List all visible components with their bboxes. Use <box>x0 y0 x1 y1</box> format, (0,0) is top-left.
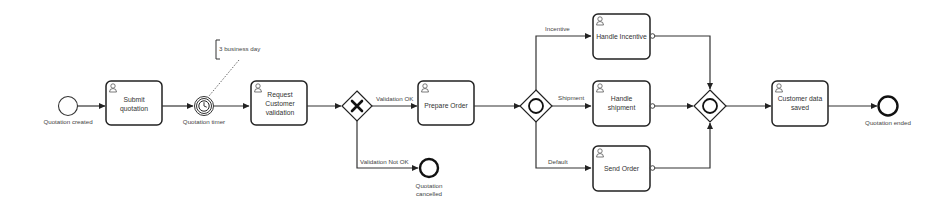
task-prepare-order[interactable]: Prepare Order <box>418 81 474 125</box>
start-event-label: Quotation created <box>43 118 93 125</box>
task-label: Handle Incentive <box>596 33 647 40</box>
task-label: shipment <box>608 104 636 112</box>
flow-label-default: Default <box>548 158 568 165</box>
annotation-text: 3 business day <box>219 45 261 52</box>
flow-label-incentive: Incentive <box>545 25 570 32</box>
end-event-quotation-ended[interactable] <box>879 97 898 116</box>
task-customer-data-saved[interactable]: Customer data saved <box>772 81 828 126</box>
task-submit-quotation[interactable]: Submit quotation <box>106 81 162 125</box>
circle-marker-icon <box>703 99 717 113</box>
end-event-label: Quotation <box>416 182 443 189</box>
start-event-quotation-created[interactable] <box>59 97 78 116</box>
end-event-label: Quotation ended <box>865 119 911 126</box>
task-label: Prepare Order <box>424 102 468 110</box>
task-label: saved <box>791 104 809 111</box>
end-event-quotation-cancelled[interactable] <box>420 159 438 177</box>
timer-event-label: Quotation timer <box>183 118 225 125</box>
task-label: Customer data <box>778 95 823 102</box>
flow-label-shipment: Shipment <box>558 94 584 101</box>
task-handle-incentive[interactable]: Handle Incentive <box>593 14 650 59</box>
task-label: Handle <box>611 95 633 102</box>
circle-marker-icon <box>529 99 543 113</box>
annotation-association <box>209 60 239 96</box>
flow-incentive-to-join[interactable] <box>654 36 710 89</box>
task-label: quotation <box>120 105 148 113</box>
flow-send-to-join[interactable] <box>654 123 710 168</box>
text-annotation[interactable]: 3 business day <box>216 40 261 59</box>
bpmn-canvas: Quotation created Submit quotation Quota… <box>0 0 952 210</box>
flow-label-validation-ok: Validation OK <box>376 95 414 102</box>
flow-start-circle-icon <box>650 166 655 171</box>
task-handle-shipment[interactable]: Handle shipment <box>593 81 650 126</box>
task-label: Customer <box>265 100 295 107</box>
flow-start-circle-icon <box>650 104 655 109</box>
task-request-customer-validation[interactable]: Request Customer validation <box>251 81 307 125</box>
inclusive-gateway-split[interactable] <box>520 90 552 122</box>
task-label: Request <box>267 91 292 99</box>
task-label: Send Order <box>604 165 640 172</box>
task-send-order[interactable]: Send Order <box>593 146 650 191</box>
task-label: validation <box>266 109 295 116</box>
flow-start-circle-icon <box>650 34 655 39</box>
flow-incentive[interactable] <box>536 36 591 90</box>
inclusive-gateway-join[interactable] <box>694 90 726 122</box>
exclusive-gateway-validation[interactable] <box>342 91 372 121</box>
end-event-label: cancelled <box>416 190 443 197</box>
timer-event-quotation-timer[interactable] <box>195 97 214 116</box>
flow-label-validation-not-ok: Validation Not OK <box>360 158 410 165</box>
task-label: Submit <box>123 96 144 103</box>
